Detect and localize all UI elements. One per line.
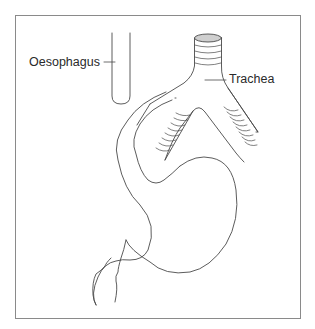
oesophagus-label: Oesophagus [29,56,100,69]
right-bronchus [228,88,258,132]
stomach-outer-wall [126,157,237,273]
duodenum-outline [93,258,111,305]
anatomy-figure: Oesophagus Trachea [0,0,315,329]
trachea [137,34,258,162]
pylorus [115,240,126,302]
oesophagus-to-stomach [93,92,180,305]
anatomy-drawing [0,0,315,329]
trachea-label: Trachea [229,73,274,86]
left-bronchus [137,104,193,160]
trachea-top-opening [195,34,222,42]
carina [165,108,244,162]
oesophagus-tube [112,33,130,104]
